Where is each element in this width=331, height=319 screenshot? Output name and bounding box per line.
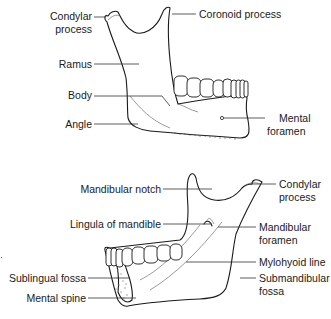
label-condylar-process-bottom: Condylar process <box>279 178 321 203</box>
label-coronoid-process: Coronoid process <box>199 8 281 21</box>
lateral-mandible <box>94 7 265 140</box>
lower-teeth-lateral <box>174 76 248 98</box>
label-line: Condylar <box>279 178 321 191</box>
label-line: Mandibular <box>259 221 311 234</box>
label-line: process <box>279 191 321 204</box>
label-line: foramen <box>259 234 311 247</box>
mandible-diagram: Condylar process Coronoid process Ramus … <box>0 0 331 319</box>
stray-mark <box>1 257 2 258</box>
label-condylar-process-top: Condylar process <box>20 10 92 35</box>
label-mylohyoid-line: Mylohyoid line <box>259 256 326 269</box>
label-lingula: Lingula of mandible <box>60 218 161 231</box>
label-ramus: Ramus <box>20 58 92 71</box>
label-sublingual-fossa: Sublingual fossa <box>0 272 86 285</box>
label-line: Condylar <box>20 10 92 23</box>
label-submandibular-fossa: Submandibular fossa <box>259 272 330 297</box>
label-line: foramen <box>267 125 311 138</box>
label-mandibular-notch: Mandibular notch <box>60 183 161 196</box>
label-line: Mental <box>267 112 311 125</box>
label-mental-foramen: Mental foramen <box>267 112 311 137</box>
label-mandibular-foramen: Mandibular foramen <box>259 221 311 246</box>
label-line: process <box>20 23 92 36</box>
label-line: Submandibular <box>259 272 330 285</box>
label-body: Body <box>20 89 92 102</box>
label-mental-spine: Mental spine <box>0 292 86 305</box>
label-line: fossa <box>259 285 330 298</box>
label-angle: Angle <box>20 118 92 131</box>
